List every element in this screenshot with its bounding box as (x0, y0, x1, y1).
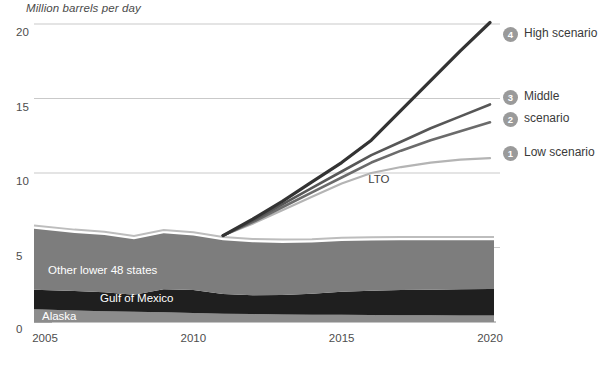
stacked-areas (34, 229, 494, 322)
oil-production-chart: Million barrels per day 05101520 2005201… (0, 0, 616, 365)
legend-marker-1: 1 (503, 146, 518, 161)
chart-plot-area (0, 0, 616, 365)
y-axis-tick-0: 0 (16, 323, 22, 335)
x-axis-tick-2020: 2020 (477, 332, 503, 344)
legend-label-4: High scenario (524, 26, 597, 40)
legend-label-3: Middle (524, 89, 559, 103)
legend-marker-2: 2 (503, 112, 518, 127)
annotation-lto: LTO (368, 173, 389, 185)
x-axis-tick-2010: 2010 (181, 332, 207, 344)
legend-item-2[interactable]: 2scenario (503, 111, 569, 127)
y-axis-tick-5: 5 (16, 250, 22, 262)
legend-item-4[interactable]: 4High scenario (503, 26, 597, 42)
x-axis-tick-2005: 2005 (32, 332, 58, 344)
y-axis-tick-15: 15 (16, 101, 29, 113)
y-axis-tick-10: 10 (16, 175, 29, 187)
x-axis-tick-2015: 2015 (329, 332, 355, 344)
scenario-lines (223, 23, 490, 236)
legend-marker-4: 4 (503, 27, 518, 42)
legend-item-1[interactable]: 1Low scenario (503, 145, 595, 161)
y-axis-tick-20: 20 (16, 26, 29, 38)
legend-item-3[interactable]: 3Middle (503, 89, 559, 105)
legend-label-1: Low scenario (524, 145, 595, 159)
legend-label-2: scenario (524, 111, 569, 125)
legend-marker-3: 3 (503, 90, 518, 105)
